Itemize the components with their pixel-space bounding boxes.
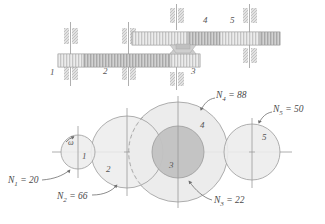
gear-train-figure: 1 2 3 4 5 1 2 3 4 5 ω N1 = 20 N2 = 66 N3…: [0, 0, 325, 224]
n1-equals: =: [20, 175, 26, 185]
bearing-upper-left: [170, 4, 184, 30]
schematic-gear-label-3: 3: [191, 67, 196, 76]
upper-shaft-assembly: [132, 32, 280, 53]
n2-subscript: 2: [63, 196, 67, 204]
pitch-gear-label-3: 3: [169, 161, 174, 170]
pitch-gear-label-2: 2: [106, 165, 111, 174]
tooth-count-label-n1: N1 = 20: [8, 176, 39, 188]
n2-equals: =: [69, 191, 75, 201]
tooth-count-label-n2: N2 = 66: [57, 192, 88, 204]
n3-equals: =: [226, 195, 232, 205]
pitch-gear-label-1: 1: [82, 152, 87, 161]
n1-value: 20: [29, 175, 39, 185]
n4-equals: =: [228, 90, 234, 100]
n1-subscript: 1: [14, 180, 18, 188]
n5-equals: =: [285, 104, 291, 114]
schematic-group: [58, 4, 280, 90]
n3-subscript: 3: [220, 200, 224, 208]
n5-value: 50: [294, 104, 304, 114]
tooth-count-label-n5: N5 = 50: [273, 105, 304, 117]
tooth-count-label-n3: N3 = 22: [214, 196, 245, 208]
schematic-gear-label-1: 1: [50, 68, 55, 77]
schematic-gear-label-4: 4: [203, 16, 208, 25]
schematic-gear-label-5: 5: [230, 16, 235, 25]
n4-value: 88: [237, 90, 247, 100]
n2-value: 66: [78, 191, 88, 201]
omega-label: ω: [68, 138, 74, 147]
schematic-gear-label-2: 2: [103, 67, 108, 76]
n3-value: 22: [235, 195, 245, 205]
n4-subscript: 4: [222, 95, 226, 103]
n5-subscript: 5: [279, 109, 283, 117]
pitch-gear-label-4: 4: [200, 121, 205, 130]
tooth-count-label-n4: N4 = 88: [216, 91, 247, 103]
pitch-gear-label-5: 5: [262, 133, 267, 142]
